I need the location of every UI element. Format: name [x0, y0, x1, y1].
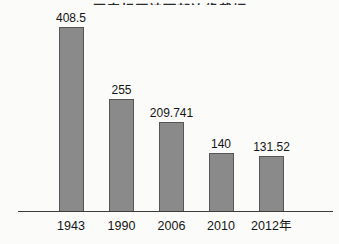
- x-tick-label-2010: 2010: [207, 219, 235, 233]
- bar-2006: [159, 122, 184, 211]
- value-label-2010: 140: [211, 137, 231, 151]
- bar-1990: [109, 99, 134, 211]
- x-tick-label-1943: 1943: [57, 219, 85, 233]
- x-tick-label-1990: 1990: [108, 219, 136, 233]
- bar-2012年: [259, 156, 284, 211]
- value-label-1943: 408.5: [56, 11, 86, 25]
- x-axis-line: [18, 211, 333, 213]
- chart-canvas: 图表标题被顶部边缘裁切 408.5255209.741140131.52 194…: [0, 0, 339, 244]
- bar-chart: 408.5255209.741140131.52 194319902006201…: [0, 0, 339, 244]
- value-label-2012年: 131.52: [253, 140, 290, 154]
- x-tick-label-2006: 2006: [158, 219, 186, 233]
- bar-1943: [59, 27, 84, 211]
- bar-2010: [209, 153, 234, 211]
- x-tick-label-2012年: 2012年: [251, 219, 292, 233]
- value-label-2006: 209.741: [150, 106, 193, 120]
- value-label-1990: 255: [111, 83, 131, 97]
